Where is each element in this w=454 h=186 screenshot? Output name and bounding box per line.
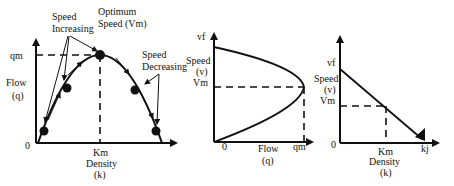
speed-density-line — [340, 69, 422, 139]
increasing-arrow — [48, 93, 60, 120]
k-label: (k) — [380, 167, 392, 179]
x-label-k: (k) — [94, 169, 106, 181]
q-label: (q) — [262, 155, 274, 167]
y-label-flow: Flow — [6, 77, 27, 88]
vm-label: Vm — [193, 77, 208, 88]
decreasing-label-2: Decreasing — [142, 61, 187, 72]
point — [131, 86, 140, 95]
vf-label: vf — [327, 57, 336, 68]
point — [63, 84, 72, 93]
optimum-label-1: Optimum — [98, 6, 137, 17]
kj-label: kj — [421, 143, 429, 154]
point — [95, 50, 105, 60]
km-label: Km — [93, 147, 108, 158]
decreasing-arrow — [116, 58, 129, 74]
decreasing-label-1: Speed — [142, 49, 166, 60]
speed-flow-curve — [214, 47, 304, 142]
increasing-label-1: Speed — [52, 11, 76, 22]
optimum-label-2: Speed (Vm) — [98, 18, 147, 30]
speed-label: Speed — [186, 55, 210, 66]
density-label: Density — [369, 156, 400, 167]
speed-density-chart: vf Speed (v) Vm 0 Km Density (k) kj — [314, 41, 434, 179]
optimum-pointer — [70, 36, 97, 51]
speed-label: Speed — [314, 73, 338, 84]
vf-label: vf — [197, 31, 206, 42]
point — [152, 127, 161, 136]
point — [40, 127, 49, 136]
increasing-label-2: Increasing — [52, 23, 94, 34]
x-label-density: Density — [86, 158, 117, 169]
origin-label: 0 — [25, 140, 30, 151]
y-label-q: (q) — [12, 90, 24, 102]
flow-density-chart: qm Flow (q) 0 Km Density (k) Optimum Spe… — [6, 6, 187, 181]
origin-label: 0 — [222, 141, 227, 152]
decreasing-arrow — [143, 98, 153, 118]
decreasing-pointer — [145, 74, 159, 84]
traffic-flow-diagrams: qm Flow (q) 0 Km Density (k) Optimum Spe… — [0, 0, 454, 186]
flow-label: Flow — [258, 143, 279, 154]
qm-label: qm — [10, 50, 23, 61]
speed-flow-chart: vf Speed (v) Vm 0 Flow (q) qm — [186, 31, 308, 167]
increasing-arrow — [68, 62, 82, 75]
decreasing-pointer — [157, 74, 159, 124]
vm-label: Vm — [320, 95, 335, 106]
origin-label: 0 — [331, 139, 336, 150]
qm-label: qm — [293, 141, 306, 152]
